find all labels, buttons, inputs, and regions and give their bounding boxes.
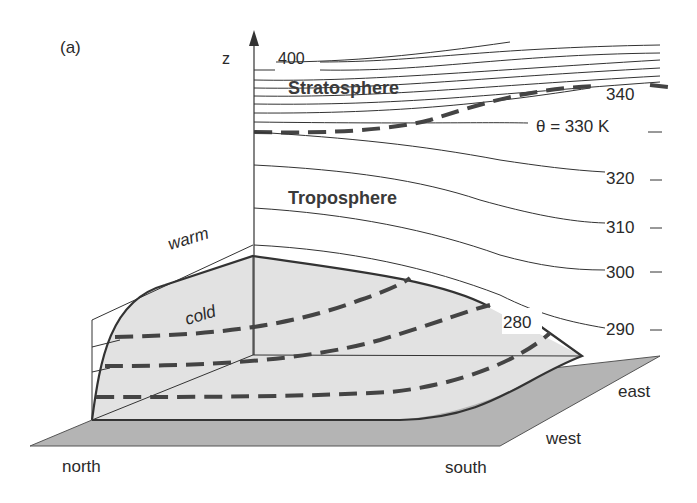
isentrope-label-400: 400 [278, 50, 305, 67]
direction-south: south [445, 458, 487, 477]
isentrope-label-290: 290 [606, 320, 634, 339]
z-axis-arrow-icon [249, 30, 259, 46]
isentrope-label-330: θ = 330 K [536, 117, 610, 136]
tropopause-line-right [650, 85, 668, 87]
troposphere-label: Troposphere [288, 188, 397, 208]
panel-label: (a) [60, 38, 81, 57]
isentrope-diagram: (a) z 400 Stratosphere Troposphere 340 θ… [0, 0, 697, 503]
isentrope-label-320: 320 [606, 169, 634, 188]
direction-west: west [545, 429, 581, 448]
isentrope-label-310: 310 [606, 218, 634, 237]
warm-label: warm [166, 224, 211, 254]
stratosphere-label: Stratosphere [288, 78, 399, 98]
isentrope-label-340: 340 [606, 85, 634, 104]
direction-east: east [618, 382, 650, 401]
diagram-canvas: (a) z 400 Stratosphere Troposphere 340 θ… [0, 0, 697, 503]
z-axis-label: z [222, 50, 230, 67]
direction-north: north [62, 457, 101, 476]
label-ticks [648, 132, 662, 330]
isentrope-label-300: 300 [606, 263, 634, 282]
isentrope-label-280: 280 [503, 313, 531, 332]
